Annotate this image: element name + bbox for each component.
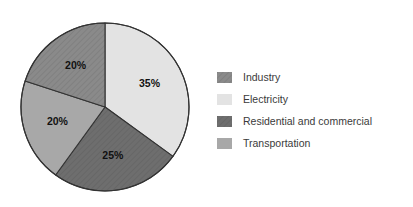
- pie-chart-svg: 35%25%20%20%: [20, 22, 190, 192]
- legend-item-industry[interactable]: Industry: [217, 66, 413, 88]
- legend-item-transportation[interactable]: Transportation: [217, 132, 413, 154]
- legend-item-electricity[interactable]: Electricity: [217, 88, 413, 110]
- pie-chart-figure: 35%25%20%20% IndustryElectricityResident…: [0, 0, 413, 207]
- legend-swatch-icon: [217, 72, 232, 83]
- pie-slice-label: 20%: [65, 59, 87, 71]
- pie-chart-plot-area: 35%25%20%20%: [20, 22, 190, 192]
- legend-item-label: Electricity: [243, 94, 288, 105]
- legend-item-label: Transportation: [243, 138, 310, 149]
- pie-slices-group: [21, 23, 189, 191]
- legend-swatch-icon: [217, 138, 232, 149]
- pie-slice-label: 20%: [47, 115, 69, 127]
- legend-item-label: Industry: [243, 72, 280, 83]
- pie-slice-label: 25%: [102, 149, 124, 161]
- legend-swatch-icon: [217, 116, 232, 127]
- chart-legend: IndustryElectricityResidential and comme…: [217, 66, 413, 154]
- legend-item-residential-and-commercial[interactable]: Residential and commercial: [217, 110, 413, 132]
- pie-slice-label: 35%: [139, 77, 161, 89]
- legend-swatch-icon: [217, 94, 232, 105]
- legend-item-label: Residential and commercial: [243, 116, 372, 127]
